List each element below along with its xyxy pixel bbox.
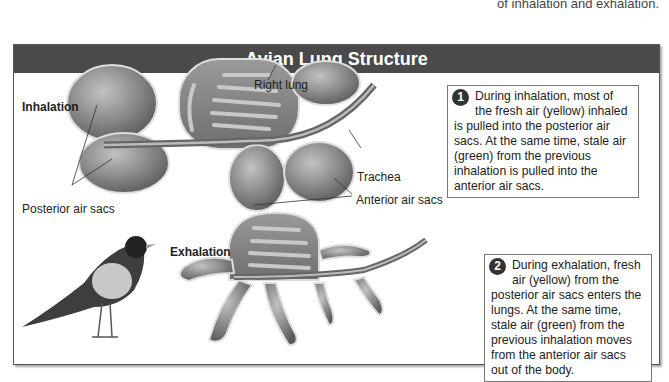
exhalation-diagram [180, 213, 426, 345]
step-number-1: 1 [452, 89, 469, 106]
step-number-2: 2 [489, 258, 506, 275]
exhalation-note-text: During exhalation, fresh air (yellow) fr… [491, 258, 641, 377]
inhalation-note: 1 During inhalation, most of the fresh a… [447, 85, 639, 198]
exhalation-note: 2 During exhalation, fresh air (yellow) … [484, 254, 652, 382]
exhalation-label: Exhalation [170, 245, 231, 259]
posterior-air-sacs-label: Posterior air sacs [22, 202, 115, 216]
top-caption: of inhalation and exhalation. [497, 0, 659, 11]
figure-panel: Avian Lung Structure [13, 44, 660, 365]
trachea-label: Trachea [357, 170, 401, 184]
right-lung-label: Right lung [254, 78, 308, 92]
robin-illustration [22, 236, 156, 337]
inhalation-note-text: During inhalation, most of the fresh air… [454, 89, 627, 193]
inhalation-label: Inhalation [22, 100, 79, 114]
inhalation-diagram [67, 59, 374, 211]
anterior-air-sacs-label: Anterior air sacs [356, 193, 443, 207]
